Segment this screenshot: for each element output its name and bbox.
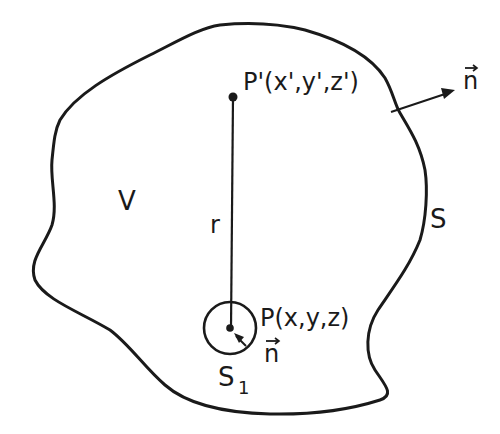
- distance-line-r: [231, 97, 233, 328]
- point-p: [226, 324, 234, 332]
- label-outer-normal: n: [463, 65, 478, 95]
- inner-normal-arrow-icon: [234, 333, 246, 346]
- label-distance-r: r: [210, 211, 220, 239]
- label-p: P(x,y,z): [260, 304, 349, 332]
- surface-s-boundary: [33, 24, 426, 414]
- label-p-prime: P'(x',y',z'): [243, 68, 359, 96]
- point-p-prime: [229, 93, 238, 102]
- svg-text:n: n: [463, 67, 478, 95]
- label-surface-s: S: [430, 204, 447, 234]
- svg-text:S: S: [218, 362, 235, 392]
- diagram-canvas: P'(x',y',z') n V r S P(x,y,z) n S 1: [0, 0, 500, 434]
- outer-normal-arrow-icon: [391, 88, 455, 112]
- label-inner-normal: n: [264, 338, 279, 368]
- label-region-v: V: [118, 186, 136, 216]
- svg-text:1: 1: [238, 377, 249, 398]
- label-small-surface-s1: S 1: [218, 362, 249, 398]
- svg-text:n: n: [264, 340, 279, 368]
